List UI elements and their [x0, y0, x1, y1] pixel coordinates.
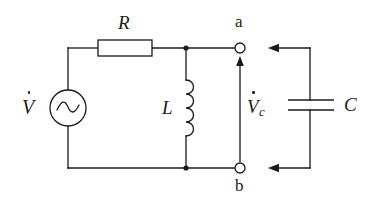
- top-loop-arrowhead: [268, 44, 279, 52]
- terminal-b-node: [235, 163, 245, 173]
- circuit-schematic-canvas: [0, 0, 377, 208]
- inductor-symbol: [186, 80, 194, 136]
- terminal-a-node: [235, 43, 245, 53]
- capacitor-label: C: [344, 95, 357, 114]
- junction-dot-bottom: [183, 165, 188, 170]
- resistor-symbol: [98, 40, 152, 56]
- circuit-diagram-figure: V R L a b Vc C: [0, 0, 377, 208]
- inductor-label: L: [162, 98, 173, 117]
- resistor-label: R: [118, 13, 130, 32]
- capacitor-voltage-subscript: c: [259, 104, 265, 119]
- bottom-loop-arrowhead: [268, 164, 279, 172]
- terminal-a-label: a: [235, 13, 243, 30]
- capacitor-voltage-label: Vc: [247, 97, 265, 119]
- voltage-source-label: V: [22, 97, 34, 117]
- terminal-b-label: b: [235, 177, 244, 194]
- junction-dot-top: [183, 45, 188, 50]
- capacitor-voltage-arrow: [236, 56, 244, 162]
